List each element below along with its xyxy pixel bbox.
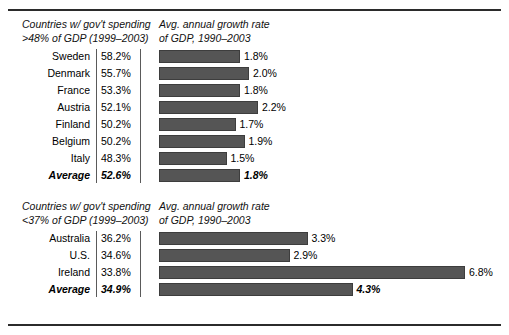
growth-bar-group: 1.9% [159, 135, 272, 148]
growth-bar-label: 2.9% [294, 249, 318, 262]
growth-bar [159, 84, 240, 97]
growth-bar-label: 1.7% [240, 118, 264, 131]
table-row: Austria52.1%2.2% [0, 99, 509, 116]
table-row-average: Average52.6%1.8% [0, 167, 509, 184]
country-label: Sweden [18, 48, 90, 65]
top-rule [8, 9, 501, 11]
growth-bar-group: 1.8% [159, 50, 268, 63]
growth-bar [159, 266, 465, 279]
growth-bar-group: 1.8% [159, 169, 268, 182]
spending-value: 36.2% [101, 230, 137, 247]
panel-rows: Australia36.2%3.3%U.S.34.6%2.9%Ireland33… [0, 230, 509, 298]
growth-bar-label: 1.9% [249, 135, 273, 148]
growth-bar-group: 1.7% [159, 118, 263, 131]
growth-bar [159, 249, 290, 262]
spending-value: 50.2% [101, 133, 137, 150]
panel-rows: Sweden58.2%1.8%Denmark55.7%2.0%France53.… [0, 48, 509, 184]
growth-bar [159, 232, 308, 245]
panel-high-spending: Countries w/ gov't spending >48% of GDP … [0, 18, 509, 184]
growth-bar [159, 283, 353, 296]
spending-value: 52.6% [101, 167, 137, 184]
spending-value: 55.7% [101, 65, 137, 82]
table-row: U.S.34.6%2.9% [0, 247, 509, 264]
table-row-average: Average34.9%4.3% [0, 281, 509, 298]
bottom-rule [8, 324, 501, 326]
panel-low-spending: Countries w/ gov't spending <37% of GDP … [0, 200, 509, 298]
panel-headers: Countries w/ gov't spending <37% of GDP … [0, 200, 509, 230]
header-left-spending: Countries w/ gov't spending <37% of GDP … [22, 200, 151, 227]
growth-bar-label: 1.8% [244, 84, 268, 97]
growth-bar-label: 1.8% [244, 169, 268, 182]
spending-value: 34.9% [101, 281, 137, 298]
growth-bar [159, 135, 245, 148]
column-separator-right [140, 49, 141, 183]
table-row: France53.3%1.8% [0, 82, 509, 99]
spending-value: 52.1% [101, 99, 137, 116]
table-row: Finland50.2%1.7% [0, 116, 509, 133]
country-label: Australia [18, 230, 90, 247]
header-right-growth: Avg. annual growth rate of GDP, 1990–200… [159, 200, 270, 227]
growth-bar-group: 3.3% [159, 232, 335, 245]
spending-value: 48.3% [101, 150, 137, 167]
country-label: France [18, 82, 90, 99]
column-separator-left [96, 231, 97, 297]
growth-bar-group: 6.8% [159, 266, 493, 279]
growth-bar-label: 2.2% [262, 101, 286, 114]
header-right-growth: Avg. annual growth rate of GDP, 1990–200… [159, 18, 270, 45]
growth-bar-label: 1.5% [231, 152, 255, 165]
chart-figure: Countries w/ gov't spending >48% of GDP … [0, 0, 509, 335]
growth-bar [159, 67, 249, 80]
growth-bar [159, 152, 227, 165]
growth-bar-label: 1.8% [244, 50, 268, 63]
growth-bar-group: 2.2% [159, 101, 286, 114]
spending-value: 58.2% [101, 48, 137, 65]
column-separator-left [96, 49, 97, 183]
table-row: Denmark55.7%2.0% [0, 65, 509, 82]
spending-value: 34.6% [101, 247, 137, 264]
spending-value: 33.8% [101, 264, 137, 281]
growth-bar-group: 2.9% [159, 249, 317, 262]
growth-bar-label: 2.0% [253, 67, 277, 80]
country-label: U.S. [18, 247, 90, 264]
growth-bar-label: 6.8% [469, 266, 493, 279]
header-left-spending: Countries w/ gov't spending >48% of GDP … [22, 18, 151, 45]
growth-bar-group: 4.3% [159, 283, 380, 296]
growth-bar [159, 118, 236, 131]
spending-value: 53.3% [101, 82, 137, 99]
growth-bar [159, 101, 258, 114]
growth-bar-group: 2.0% [159, 67, 277, 80]
growth-bar [159, 169, 240, 182]
table-row: Italy48.3%1.5% [0, 150, 509, 167]
country-label: Average [18, 167, 90, 184]
growth-bar-group: 1.8% [159, 84, 268, 97]
growth-bar-group: 1.5% [159, 152, 254, 165]
panel-headers: Countries w/ gov't spending >48% of GDP … [0, 18, 509, 48]
growth-bar-label: 4.3% [357, 283, 381, 296]
country-label: Ireland [18, 264, 90, 281]
country-label: Finland [18, 116, 90, 133]
table-row: Sweden58.2%1.8% [0, 48, 509, 65]
country-label: Belgium [18, 133, 90, 150]
table-row: Belgium50.2%1.9% [0, 133, 509, 150]
growth-bar-label: 3.3% [312, 232, 336, 245]
country-label: Austria [18, 99, 90, 116]
country-label: Denmark [18, 65, 90, 82]
column-separator-right [140, 231, 141, 297]
table-row: Ireland33.8%6.8% [0, 264, 509, 281]
spending-value: 50.2% [101, 116, 137, 133]
country-label: Italy [18, 150, 90, 167]
table-row: Australia36.2%3.3% [0, 230, 509, 247]
growth-bar [159, 50, 240, 63]
country-label: Average [18, 281, 90, 298]
